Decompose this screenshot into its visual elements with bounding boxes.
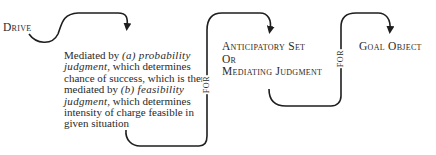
- drive-arrow: [29, 13, 127, 42]
- drive-node: Drive: [3, 21, 31, 33]
- anticipatory-line-1: Anticipatory Set: [222, 40, 322, 53]
- anticipatory-set-node: Anticipatory Set Or Mediating Judgment: [222, 40, 322, 78]
- for-label-2: FOR: [336, 49, 345, 68]
- for-label-1: FOR: [202, 75, 211, 94]
- mediation-description: Mediated by (a) probability judgment, wh…: [64, 50, 214, 130]
- mediation-label-a: (a): [122, 49, 139, 61]
- anticipatory-line-3: Mediating Judgment: [222, 65, 322, 78]
- mediation-label-b: (b): [121, 83, 138, 95]
- goal-object-node: Goal Object: [359, 40, 422, 52]
- mediation-text-1: Mediated by: [64, 49, 122, 61]
- anticipatory-line-2: Or: [222, 53, 322, 66]
- motivation-flow-diagram: Drive Mediated by (a) probability judgme…: [0, 0, 436, 155]
